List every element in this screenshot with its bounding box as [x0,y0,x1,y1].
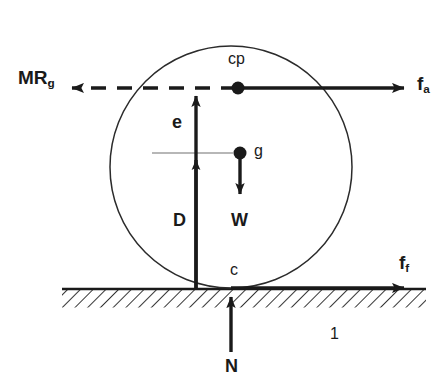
label-point-c: c [230,262,238,278]
label-inertial-force: MR∙∙g [18,68,55,89]
label-dimension-d: D [173,211,186,229]
point-g-dot [234,147,247,160]
free-body-diagram: MR∙∙g fa ff cp g c e D W N 1 [0,0,445,384]
ground-surface [62,289,426,308]
label-ground-surface: 1 [330,326,339,342]
ground-hatch [62,290,426,308]
label-point-g: g [254,143,263,159]
wheel-outline [110,46,352,288]
label-normal-force: N [225,357,238,375]
label-friction-force: ff [399,253,409,274]
label-point-cp: cp [228,51,245,67]
diagram-canvas [0,0,445,384]
point-cp-dot [232,82,245,95]
label-applied-force: fa [417,74,430,95]
label-dimension-e: e [172,113,182,131]
label-weight-force: W [231,211,248,229]
